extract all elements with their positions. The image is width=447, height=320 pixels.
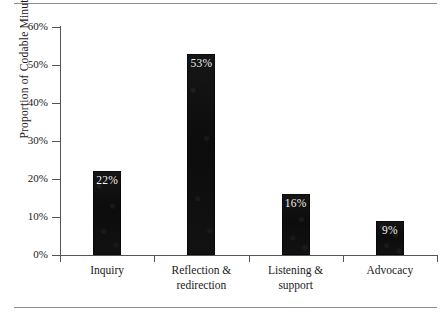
x-category-label: Advocacy (343, 263, 437, 278)
figure-container: Proportion of Codable Minutes 0%10%20%30… (0, 0, 447, 320)
x-category-label-line: redirection (154, 278, 248, 293)
x-category-label-line: Listening & (249, 263, 343, 278)
x-category-label-line: Inquiry (60, 263, 154, 278)
y-tick-label: 20% (2, 173, 48, 184)
y-tick-label: 50% (2, 59, 48, 70)
y-tick-label: 10% (2, 211, 48, 222)
y-tick-label: 0% (2, 249, 48, 260)
bottom-horizontal-rule (14, 307, 437, 308)
x-category-label-line: Advocacy (343, 263, 437, 278)
y-tick-mark (52, 103, 60, 104)
y-tick-label: 30% (2, 135, 48, 146)
y-tick-label: 40% (2, 97, 48, 108)
bar-value-label: 9% (376, 225, 404, 237)
y-tick-mark (52, 255, 60, 256)
x-category-label-line: Reflection & (154, 263, 248, 278)
y-tick-mark (52, 65, 60, 66)
bar: 22% (93, 171, 121, 255)
y-tick-mark (52, 217, 60, 218)
bar: 53% (187, 54, 215, 255)
x-tick-mark (60, 255, 61, 262)
bar: 16% (282, 194, 310, 255)
bar-value-label: 16% (282, 198, 310, 210)
x-category-label-line: support (249, 278, 343, 293)
x-tick-mark (343, 255, 344, 262)
y-tick-mark (52, 141, 60, 142)
x-category-label: Inquiry (60, 263, 154, 278)
x-tick-mark (437, 255, 438, 262)
x-category-label: Reflection &redirection (154, 263, 248, 292)
bar: 9% (376, 221, 404, 255)
x-category-label: Listening &support (249, 263, 343, 292)
bar-value-label: 53% (187, 58, 215, 70)
y-axis-line (60, 26, 61, 256)
y-tick-mark (52, 27, 60, 28)
bar-value-label: 22% (93, 175, 121, 187)
x-tick-mark (154, 255, 155, 262)
x-tick-mark (249, 255, 250, 262)
top-horizontal-rule (14, 3, 437, 4)
y-tick-mark (52, 179, 60, 180)
y-tick-label: 60% (2, 21, 48, 32)
